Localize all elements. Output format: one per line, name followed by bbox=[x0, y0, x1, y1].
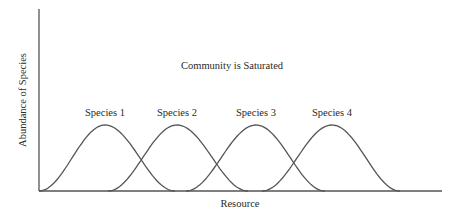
y-axis-label: Abundance of Species bbox=[17, 53, 28, 147]
species-1-label: Species 1 bbox=[85, 107, 125, 118]
plot-area bbox=[0, 0, 465, 217]
species-3-curve bbox=[186, 125, 325, 191]
species-4-label: Species 4 bbox=[312, 107, 352, 118]
species-2-label: Species 2 bbox=[157, 107, 197, 118]
x-axis-label: Resource bbox=[220, 198, 259, 209]
species-1-curve bbox=[39, 125, 175, 191]
species-3-label: Species 3 bbox=[236, 107, 276, 118]
species-2-curve bbox=[108, 125, 248, 191]
niche-overlap-diagram: Abundance of Species Community is Satura… bbox=[0, 0, 465, 217]
chart-title: Community is Saturated bbox=[181, 60, 283, 71]
species-4-curve bbox=[262, 125, 400, 191]
